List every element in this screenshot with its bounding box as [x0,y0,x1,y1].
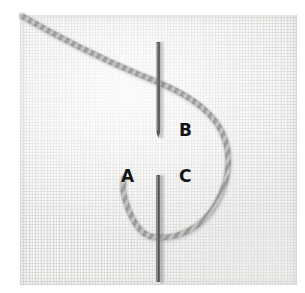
thread-twist-texture [22,16,228,237]
label-a: A [121,168,134,185]
needle-lower-segment [156,175,164,283]
label-c: C [179,168,191,185]
needle-upper-segment [156,42,163,138]
label-b: B [179,122,192,139]
stitch-photograph: A B C [0,0,305,293]
thread-and-needle-layer [0,0,305,293]
